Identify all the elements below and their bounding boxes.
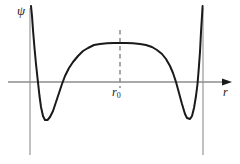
x-axis-label: r — [223, 86, 228, 98]
plot-canvas — [0, 0, 240, 164]
r0-marker-label: r0 — [112, 86, 121, 98]
psi-curve — [31, 6, 203, 120]
y-axis-label: ψ — [17, 4, 25, 17]
r0-base: r — [112, 85, 117, 99]
r0-subscript: 0 — [117, 91, 121, 100]
figure-container: ψ r r0 — [0, 0, 240, 164]
